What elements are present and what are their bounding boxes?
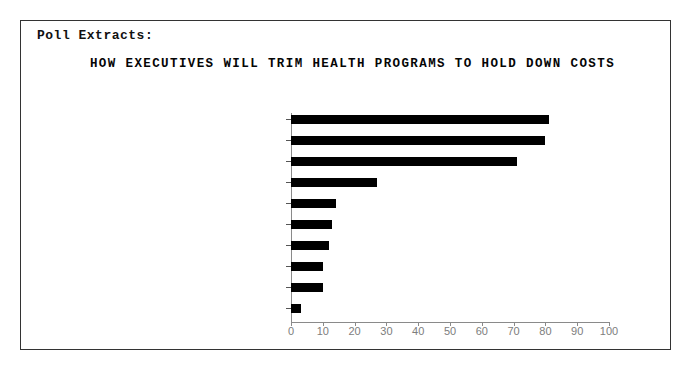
bar-chart: INCREASE EMPLOYEE PREMIUMS 81%INCREASE D… xyxy=(21,21,670,349)
x-axis-tick-label: 50 xyxy=(444,325,456,337)
bar xyxy=(291,241,329,250)
bar xyxy=(291,283,323,292)
bar xyxy=(291,157,517,166)
x-axis-tick-label: 100 xyxy=(600,325,618,337)
bar xyxy=(291,220,332,229)
x-axis-tick-label: 80 xyxy=(539,325,551,337)
bar xyxy=(291,136,545,145)
bar xyxy=(291,178,377,187)
x-axis-tick-label: 60 xyxy=(476,325,488,337)
x-axis-tick-label: 0 xyxy=(288,325,294,337)
x-axis-tick-label: 20 xyxy=(348,325,360,337)
bar xyxy=(291,115,549,124)
x-axis-tick-label: 90 xyxy=(571,325,583,337)
plot-area: INCREASE EMPLOYEE PREMIUMS 81%INCREASE D… xyxy=(291,113,611,343)
x-axis-tick-label: 30 xyxy=(380,325,392,337)
x-axis-tick-label: 10 xyxy=(317,325,329,337)
poster-frame: Poll Extracts: HOW EXECUTIVES WILL TRIM … xyxy=(20,20,671,350)
x-axis-tick-label: 40 xyxy=(412,325,424,337)
bar xyxy=(291,262,323,271)
bar xyxy=(291,199,336,208)
x-axis-tick-label: 70 xyxy=(507,325,519,337)
poll-extracts-chart-page: { "poster": { "section_label": "Poll Ext… xyxy=(0,0,691,372)
bar xyxy=(291,304,301,313)
